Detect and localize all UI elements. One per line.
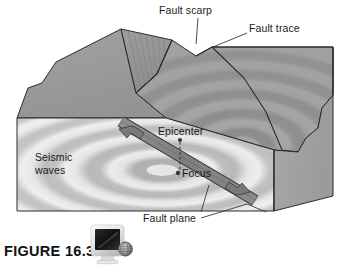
label-fault-scarp: Fault scarp (159, 5, 212, 17)
computer-monitor-icon (88, 223, 134, 265)
leader-fault-trace (213, 33, 247, 47)
label-fault-plane: Fault plane (143, 213, 196, 225)
label-fault-trace: Fault trace (249, 23, 300, 35)
figure-container: Fault scarp Fault trace Epicenter Focus … (0, 0, 339, 271)
label-focus: Focus (182, 168, 211, 180)
label-epicenter: Epicenter (158, 126, 203, 138)
focus-marker (176, 171, 180, 175)
figure-caption: FIGURE 16.3 (4, 243, 94, 259)
epicenter-marker (178, 138, 182, 142)
leader-fault-scarp (196, 18, 198, 44)
monitor-base (97, 261, 118, 264)
label-seismic-waves: Seismic waves (35, 151, 91, 177)
